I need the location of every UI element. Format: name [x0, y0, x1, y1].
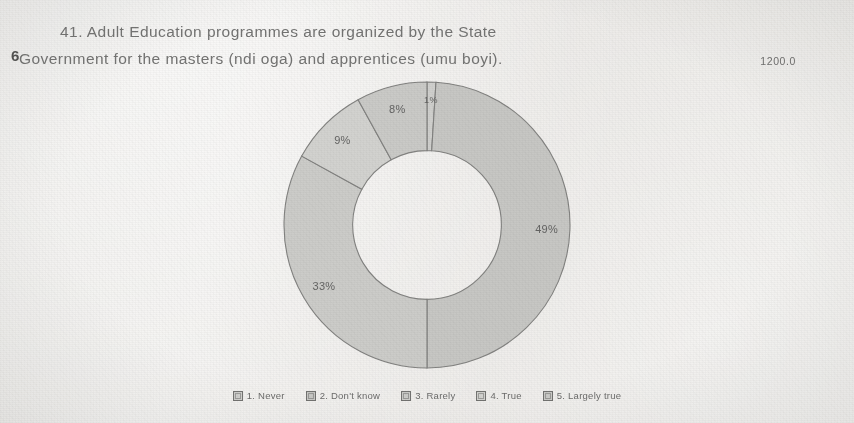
chart-legend: 1. Never2. Don't know3. Rarely4. True5. … [0, 390, 854, 401]
legend-label: 5. Largely true [557, 390, 621, 401]
slice-data-label: 33% [313, 280, 336, 292]
legend-item[interactable]: 5. Largely true [543, 390, 621, 401]
legend-swatch-icon [401, 391, 411, 401]
legend-label: 1. Never [247, 390, 285, 401]
axis-max-label: 1200.0 [760, 55, 796, 67]
slice-data-label: 1% [424, 95, 438, 105]
legend-item[interactable]: 4. True [476, 390, 521, 401]
doughnut-svg [281, 80, 573, 370]
chart-title: 41. Adult Education programmes are organ… [0, 18, 760, 72]
doughnut-slices [284, 82, 570, 368]
legend-swatch-icon [306, 391, 316, 401]
scan-artifact-glyph: 6 [11, 47, 19, 64]
slice-data-label: 49% [535, 223, 558, 235]
legend-swatch-icon [476, 391, 486, 401]
doughnut-graphic [281, 80, 573, 370]
legend-label: 3. Rarely [415, 390, 455, 401]
slice-data-label: 9% [334, 134, 351, 146]
legend-label: 4. True [490, 390, 521, 401]
slice-data-label: 8% [389, 103, 406, 115]
legend-label: 2. Don't know [320, 390, 381, 401]
scanned-page: 41. Adult Education programmes are organ… [0, 0, 854, 423]
legend-swatch-icon [233, 391, 243, 401]
doughnut-slice[interactable] [284, 156, 427, 368]
legend-item[interactable]: 1. Never [233, 390, 285, 401]
chart-title-line-1: 41. Adult Education programmes are organ… [0, 18, 760, 45]
chart-title-line-2: Government for the masters (ndi oga) and… [0, 45, 760, 72]
legend-item[interactable]: 3. Rarely [401, 390, 455, 401]
legend-swatch-icon [543, 391, 553, 401]
doughnut-chart: 1%49%33%9%8% [281, 80, 573, 370]
legend-item[interactable]: 2. Don't know [306, 390, 381, 401]
